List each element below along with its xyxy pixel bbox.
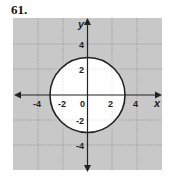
y-axis-label: y [77, 18, 85, 30]
x-axis-label: x [153, 97, 161, 109]
y-tick-label: -4 [76, 141, 84, 151]
x-tick-label: 4 [133, 99, 138, 109]
x-tick-label: 2 [108, 99, 113, 109]
graph: y x -4 -2 0 2 4 4 2 -2 -4 [0, 0, 170, 188]
x-tick-label: -4 [33, 99, 41, 109]
x-tick-label: -2 [58, 99, 66, 109]
y-tick-label: -2 [76, 116, 84, 126]
y-tick-label: 4 [79, 40, 84, 50]
x-tick-label: 0 [80, 99, 85, 109]
y-tick-label: 2 [79, 65, 84, 75]
